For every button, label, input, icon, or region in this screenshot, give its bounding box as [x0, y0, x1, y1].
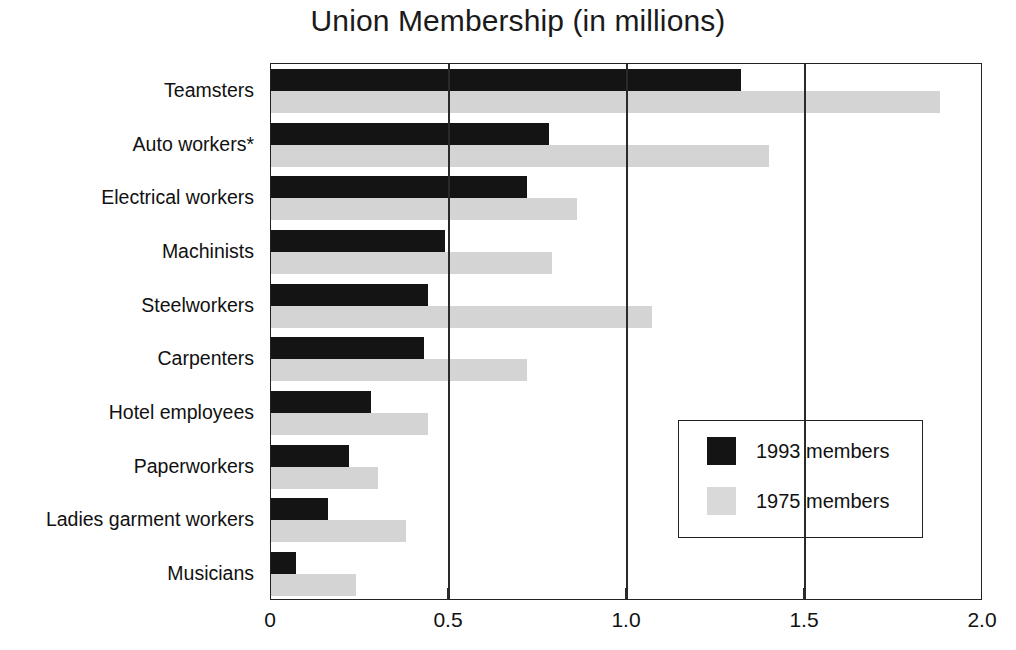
category-label: Hotel employees — [0, 401, 262, 424]
dark-swatch-icon — [707, 437, 736, 465]
bar-1993 — [271, 69, 741, 91]
bar-1975 — [271, 520, 406, 542]
bar-1993 — [271, 284, 428, 306]
bar-1975 — [271, 467, 378, 489]
x-tick-label: 2.0 — [967, 608, 996, 632]
category-label: Musicians — [0, 562, 262, 585]
value-axis: 00.51.01.52.0 — [270, 600, 982, 644]
x-tick-mark — [625, 588, 627, 600]
category-label: Ladies garment workers — [0, 508, 262, 531]
bar-1975 — [271, 359, 527, 381]
category-label: Steelworkers — [0, 293, 262, 316]
category-label: Carpenters — [0, 347, 262, 370]
x-tick-mark — [803, 588, 805, 600]
bar-1975 — [271, 574, 356, 596]
category-label: Teamsters — [0, 78, 262, 101]
bar-1993 — [271, 176, 527, 198]
legend-label-1993: 1993 members — [756, 440, 889, 463]
bar-1993 — [271, 123, 549, 145]
category-label: Auto workers* — [0, 132, 262, 155]
category-label: Paperworkers — [0, 454, 262, 477]
gridline-1.0 — [626, 64, 628, 599]
bar-1993 — [271, 552, 296, 574]
chart-legend: 1993 members 1975 members — [678, 420, 923, 538]
bar-1975 — [271, 252, 552, 274]
bar-1975 — [271, 91, 940, 113]
bar-1975 — [271, 198, 577, 220]
chart-root: Union Membership (in millions) Teamsters… — [0, 0, 1016, 650]
bar-1993 — [271, 498, 328, 520]
legend-item-1993: 1993 members — [707, 437, 889, 465]
x-tick-label: 0 — [264, 608, 276, 632]
category-label: Electrical workers — [0, 186, 262, 209]
x-tick-label: 0.5 — [433, 608, 462, 632]
x-tick-mark — [447, 588, 449, 600]
x-tick-label: 1.0 — [611, 608, 640, 632]
light-swatch-icon — [707, 487, 736, 515]
legend-item-1975: 1975 members — [707, 487, 889, 515]
x-tick-label: 1.5 — [789, 608, 818, 632]
gridline-0.5 — [448, 64, 450, 599]
category-axis-labels: TeamstersAuto workers*Electrical workers… — [0, 63, 262, 600]
legend-label-1975: 1975 members — [756, 490, 889, 513]
bar-1993 — [271, 230, 445, 252]
bar-1975 — [271, 145, 769, 167]
bar-1993 — [271, 445, 349, 467]
bar-1975 — [271, 306, 652, 328]
page-title: Union Membership (in millions) — [0, 4, 1016, 38]
bar-1993 — [271, 391, 371, 413]
bar-1993 — [271, 337, 424, 359]
category-label: Machinists — [0, 239, 262, 262]
bar-1975 — [271, 413, 428, 435]
